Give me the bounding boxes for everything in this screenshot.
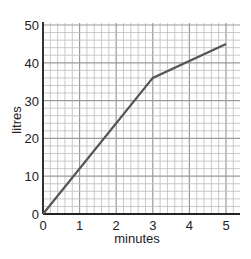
y-tick-label: 0 (32, 207, 39, 222)
line-chart: 01234501020304050 minutes litres (0, 0, 251, 259)
x-tick-label: 4 (186, 218, 193, 233)
y-tick-label: 50 (25, 18, 39, 33)
y-axis-label: litres (9, 106, 24, 134)
y-tick-label: 20 (25, 131, 39, 146)
x-tick-label: 0 (39, 218, 46, 233)
x-tick-label: 1 (76, 218, 83, 233)
y-tick-label: 10 (25, 169, 39, 184)
tick-labels: 01234501020304050 (25, 18, 230, 233)
y-tick-label: 40 (25, 56, 39, 71)
data-line (43, 44, 226, 214)
x-axis-label: minutes (114, 231, 160, 246)
x-tick-label: 5 (222, 218, 229, 233)
y-tick-label: 30 (25, 94, 39, 109)
